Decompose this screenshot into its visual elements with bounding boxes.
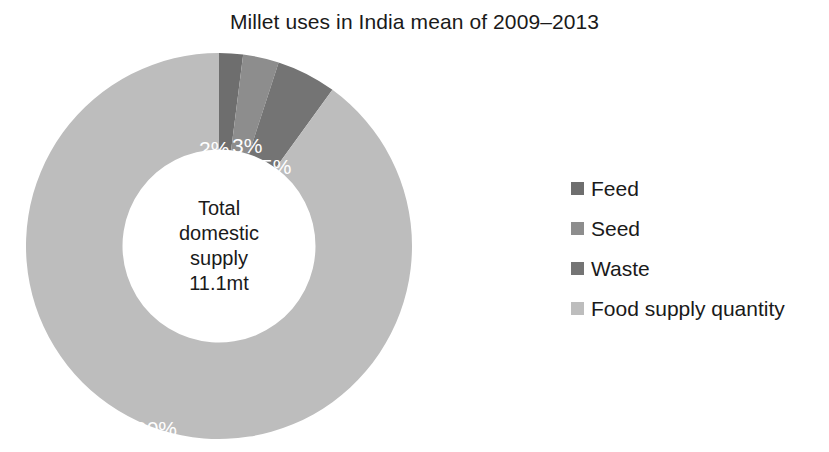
chart-title: Millet uses in India mean of 2009–2013	[0, 10, 829, 34]
legend-label: Waste	[591, 258, 650, 279]
legend-swatch-icon	[571, 182, 584, 195]
legend-swatch-icon	[571, 302, 584, 315]
donut-svg	[25, 52, 413, 440]
legend-item-food-supply-quantity[interactable]: Food supply quantity	[571, 288, 827, 328]
legend-item-seed[interactable]: Seed	[571, 208, 827, 248]
legend-item-waste[interactable]: Waste	[571, 248, 827, 288]
legend-swatch-icon	[571, 222, 584, 235]
donut-slice-group	[26, 53, 412, 439]
legend-swatch-icon	[571, 262, 584, 275]
donut-chart: Total domestic supply 11.1mt 2% 3% 5% 90…	[25, 52, 413, 440]
chart-legend: FeedSeedWasteFood supply quantity	[571, 168, 827, 328]
donut-slice-food-supply-quantity	[26, 53, 412, 439]
legend-label: Seed	[591, 218, 640, 239]
legend-label: Feed	[591, 178, 639, 199]
legend-label: Food supply quantity	[591, 298, 785, 319]
legend-item-feed[interactable]: Feed	[571, 168, 827, 208]
donut-chart-figure: Millet uses in India mean of 2009–2013 T…	[0, 0, 829, 452]
